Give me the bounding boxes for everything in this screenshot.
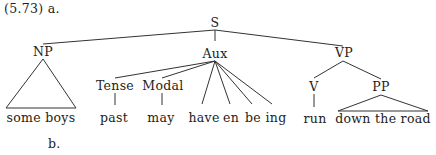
leaf-np: some boys xyxy=(7,111,76,125)
leaf-ing: ing xyxy=(266,111,287,125)
leaf-have: have xyxy=(188,111,219,125)
example-number: (5.73) a. xyxy=(4,2,60,16)
leaf-may: may xyxy=(147,111,174,125)
leaf-pp: down the road xyxy=(335,112,431,126)
example-b: b. xyxy=(48,137,61,151)
leaf-run: run xyxy=(304,112,327,126)
node-tense: Tense xyxy=(96,79,134,93)
node-np: NP xyxy=(33,45,53,59)
node-vp: VP xyxy=(335,46,353,60)
node-s: S xyxy=(211,16,220,30)
node-aux: Aux xyxy=(202,47,227,61)
node-pp: PP xyxy=(372,80,389,94)
leaf-past: past xyxy=(100,111,128,125)
node-v: V xyxy=(309,80,318,94)
leaf-be: be xyxy=(245,111,261,125)
node-modal: Modal xyxy=(142,79,183,93)
leaf-en: en xyxy=(223,111,239,125)
